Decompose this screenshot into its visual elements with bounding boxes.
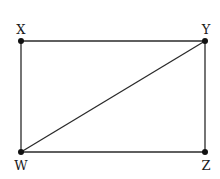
label-z: Z xyxy=(201,158,210,173)
point-y xyxy=(202,38,208,44)
rectangle-diagram: X Y W Z xyxy=(0,0,220,179)
label-x: X xyxy=(16,22,26,37)
label-y: Y xyxy=(201,22,211,37)
point-x xyxy=(18,38,24,44)
diagonal-wy xyxy=(21,41,205,152)
point-w xyxy=(18,149,24,155)
label-w: W xyxy=(14,158,28,173)
point-z xyxy=(202,149,208,155)
